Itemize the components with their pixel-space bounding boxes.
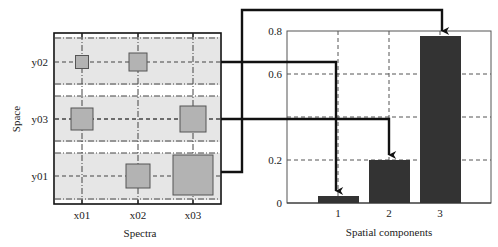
column-label-x02: x02: [130, 209, 147, 221]
y-axis-title-space: Space: [10, 106, 22, 132]
column-label-x03: x03: [185, 209, 202, 221]
space-spectra-grid: [54, 33, 221, 204]
x-axis-title-spatial-components: Spatial components: [346, 226, 432, 238]
bar-2: [369, 160, 410, 203]
row-label-y03: y03: [32, 113, 49, 125]
square-y03-x03: [180, 106, 206, 132]
y-tick-0-6: 0.6: [268, 68, 282, 80]
bar-1: [318, 196, 359, 203]
row-label-y01: y01: [32, 170, 49, 182]
bar-3: [420, 36, 461, 203]
y-tick-0-2: 0.2: [268, 154, 282, 166]
square-y03-x01: [71, 108, 93, 130]
square-y01-x03: [173, 155, 213, 195]
bar-chart: [287, 31, 491, 203]
square-y01-x02: [126, 164, 150, 188]
x-axis-title-spectra: Spectra: [124, 227, 157, 239]
y-tick-0-8: 0.8: [268, 25, 282, 37]
x-tick-3: 3: [437, 207, 443, 219]
square-y02-x02: [129, 53, 147, 71]
x-tick-1: 1: [335, 207, 341, 219]
y-tick-0: 0: [277, 197, 283, 209]
x-tick-2: 2: [386, 207, 392, 219]
diagram: y02 y03 y01 x01 x02 x03 Spectra Space 0 …: [0, 0, 498, 247]
row-label-y02: y02: [32, 56, 49, 68]
square-y02-x01: [76, 56, 89, 69]
column-label-x01: x01: [74, 209, 91, 221]
